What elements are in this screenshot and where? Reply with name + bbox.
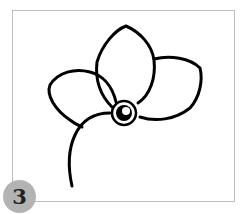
step-number: 3 bbox=[12, 184, 27, 209]
flower-center bbox=[112, 101, 136, 125]
flower-drawing bbox=[0, 0, 242, 214]
step-number-badge: 3 bbox=[3, 180, 36, 213]
petal-top bbox=[97, 26, 155, 107]
